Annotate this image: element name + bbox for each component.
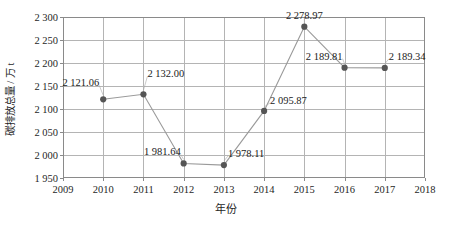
data-series-layer bbox=[0, 0, 452, 225]
data-point-marker bbox=[261, 108, 267, 114]
data-point-label: 2 189.81 bbox=[306, 51, 343, 62]
data-point-marker bbox=[100, 96, 106, 102]
data-point-label: 2 121.06 bbox=[62, 77, 99, 88]
y-axis-title: 碳排放总量 / 万 t bbox=[2, 35, 17, 165]
data-point-label: 1 978.11 bbox=[228, 148, 264, 159]
x-axis-title: 年份 bbox=[0, 200, 452, 216]
data-point-marker bbox=[140, 91, 146, 97]
data-point-marker bbox=[181, 160, 187, 166]
data-point-marker bbox=[341, 65, 347, 71]
label-leader-line bbox=[343, 59, 345, 64]
data-point-marker bbox=[221, 162, 227, 168]
carbon-emission-line-chart: 1 9502 0002 0502 1002 1502 2002 2502 300… bbox=[0, 0, 452, 225]
data-point-label: 2 278.97 bbox=[286, 10, 323, 21]
data-point-marker bbox=[301, 24, 307, 30]
data-point-label: 1 981.64 bbox=[144, 146, 181, 157]
data-point-label: 2 132.00 bbox=[147, 68, 184, 79]
data-point-marker bbox=[382, 65, 388, 71]
label-leader-line bbox=[99, 85, 103, 95]
data-point-label: 2 095.87 bbox=[270, 95, 307, 106]
data-point-label: 2 189.34 bbox=[389, 51, 426, 62]
